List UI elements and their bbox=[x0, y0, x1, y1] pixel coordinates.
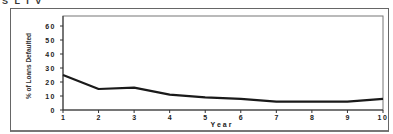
x-tick-label: 4 bbox=[168, 114, 172, 121]
y-axis-title: % of Loans Defaulted bbox=[25, 33, 32, 99]
x-tick-label: 8 bbox=[310, 114, 314, 121]
x-tick-label: 6 bbox=[239, 114, 243, 121]
data-line bbox=[63, 75, 383, 102]
x-axis: 12345678910 bbox=[61, 110, 388, 121]
y-tick-label: 10 bbox=[45, 93, 56, 100]
y-tick-label: 50 bbox=[45, 37, 56, 44]
y-tick-label: 0 bbox=[51, 107, 56, 114]
y-tick-label: 30 bbox=[45, 65, 56, 72]
x-axis-title: Year bbox=[211, 121, 234, 128]
x-tick-label: 1 bbox=[61, 114, 65, 121]
x-tick-label: 2 bbox=[97, 114, 101, 121]
x-tick-label: 7 bbox=[274, 114, 278, 121]
line-chart: 0102030405060 12345678910 Year % of Loan… bbox=[0, 0, 393, 134]
plot-area bbox=[63, 16, 383, 110]
x-tick-label: 9 bbox=[345, 114, 349, 121]
y-tick-label: 20 bbox=[45, 79, 56, 86]
plot-frame bbox=[63, 16, 383, 110]
x-tick-label: 5 bbox=[203, 114, 207, 121]
y-tick-label: 40 bbox=[45, 51, 56, 58]
x-tick-label: 10 bbox=[378, 114, 389, 121]
y-axis: 0102030405060 bbox=[45, 16, 63, 114]
y-tick-label: 60 bbox=[45, 23, 56, 30]
x-tick-label: 3 bbox=[132, 114, 136, 121]
